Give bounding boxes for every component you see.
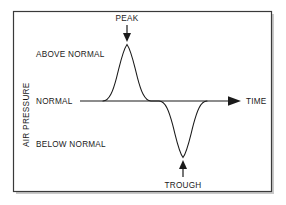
callout-peak-label: PEAK (116, 14, 139, 23)
figure-container: AIR PRESSURE ABOVE NORMAL NORMAL BELOW N… (0, 0, 286, 205)
y-axis-label: AIR PRESSURE (22, 82, 31, 147)
x-axis-label-time: TIME (246, 97, 267, 106)
level-label-below-normal: BELOW NORMAL (36, 140, 106, 149)
callout-trough-label: TROUGH (165, 181, 202, 190)
air-pressure-wave-diagram: AIR PRESSURE ABOVE NORMAL NORMAL BELOW N… (0, 0, 286, 205)
y-axis-label-text: AIR PRESSURE (22, 82, 31, 147)
level-label-above-normal: ABOVE NORMAL (36, 50, 105, 59)
level-label-normal: NORMAL (36, 97, 73, 106)
